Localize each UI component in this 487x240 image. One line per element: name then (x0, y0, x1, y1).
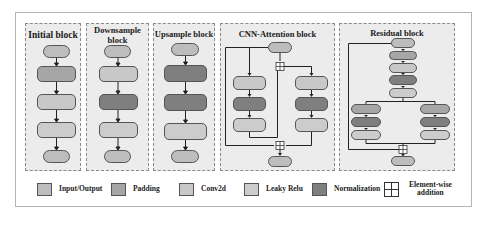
legend-conv2d: Conv2d (179, 181, 226, 197)
input-node (104, 45, 131, 58)
input-node (268, 42, 292, 53)
residual-block-title: Residual block (340, 28, 454, 38)
leaky-relu-node (99, 122, 138, 138)
conv2d-node (37, 94, 76, 110)
output-node (104, 150, 131, 163)
plus-box-icon (384, 182, 399, 197)
conv2d-node-right (295, 76, 328, 90)
normalization-node-right (295, 97, 328, 111)
legend-leaky-relu: Leaky Relu (244, 181, 303, 197)
normalization-node-left (233, 97, 266, 111)
normalization-node-right (420, 117, 450, 127)
cnn-attention-block-panel: CNN-Attention block (220, 23, 335, 171)
output-node (43, 150, 70, 163)
leaky-relu-node-right (420, 130, 450, 140)
padding-node-right (420, 104, 450, 114)
legend-label: Input/Output (59, 185, 102, 193)
conv2d-node (99, 66, 138, 82)
addition-icon (276, 63, 284, 150)
cnn-attention-block-title: CNN-Attention block (221, 29, 334, 39)
addition-icon (399, 146, 407, 154)
leaky-relu-node-left (233, 118, 266, 132)
leaky-relu-node (37, 122, 76, 138)
padding-node (37, 66, 76, 82)
legend-padding: Padding (111, 181, 160, 197)
output-node (391, 156, 415, 166)
legend-label: Element-wise addition (409, 181, 452, 197)
downsample-title-line2: block (87, 35, 148, 45)
upsample-block-title: Upsample block (154, 29, 214, 39)
leaky-relu-node (164, 123, 207, 140)
leaky-relu-swatch (244, 183, 259, 196)
residual-block-panel: Residual block (339, 23, 455, 171)
conv2d-node (389, 63, 417, 73)
normalization-node (389, 75, 417, 85)
leaky-relu-node-left (351, 130, 381, 140)
legend-label: Normalization (334, 185, 380, 193)
normalization-node (99, 94, 138, 110)
input-node (391, 38, 415, 48)
normalization-node-left (351, 117, 381, 127)
input-node (43, 45, 70, 58)
legend-label: Padding (133, 185, 160, 193)
leaky-relu-node-right (295, 118, 328, 132)
padding-node-left (351, 104, 381, 114)
legend-normalization: Normalization (312, 181, 380, 197)
initial-block-title: Initial block (26, 30, 80, 40)
upsample-block-panel: Upsample block (153, 23, 215, 171)
legend-label: Conv2d (201, 185, 226, 193)
conv2d-swatch (179, 183, 194, 196)
conv2d-node-left (233, 76, 266, 90)
output-node (268, 156, 292, 167)
legend-label-line2: addition (409, 189, 452, 197)
padding-node (389, 51, 417, 60)
normalization-swatch (312, 183, 327, 196)
output-node (171, 150, 199, 163)
leaky-relu-node (389, 88, 417, 98)
normalization-node-2 (164, 94, 207, 111)
downsample-title-line1: Downsample (87, 25, 148, 35)
downsample-block-title: Downsample block (87, 25, 148, 45)
downsample-block-panel: Downsample block (86, 23, 149, 171)
input-node (171, 43, 199, 56)
initial-block-panel: Initial block (25, 23, 81, 171)
padding-swatch (111, 183, 126, 196)
legend-elementwise-addition: Element-wise addition (384, 181, 452, 197)
input-output-swatch (37, 183, 52, 196)
legend-label: Leaky Relu (266, 185, 303, 193)
normalization-node (164, 65, 207, 82)
legend-input-output: Input/Output (37, 181, 102, 197)
